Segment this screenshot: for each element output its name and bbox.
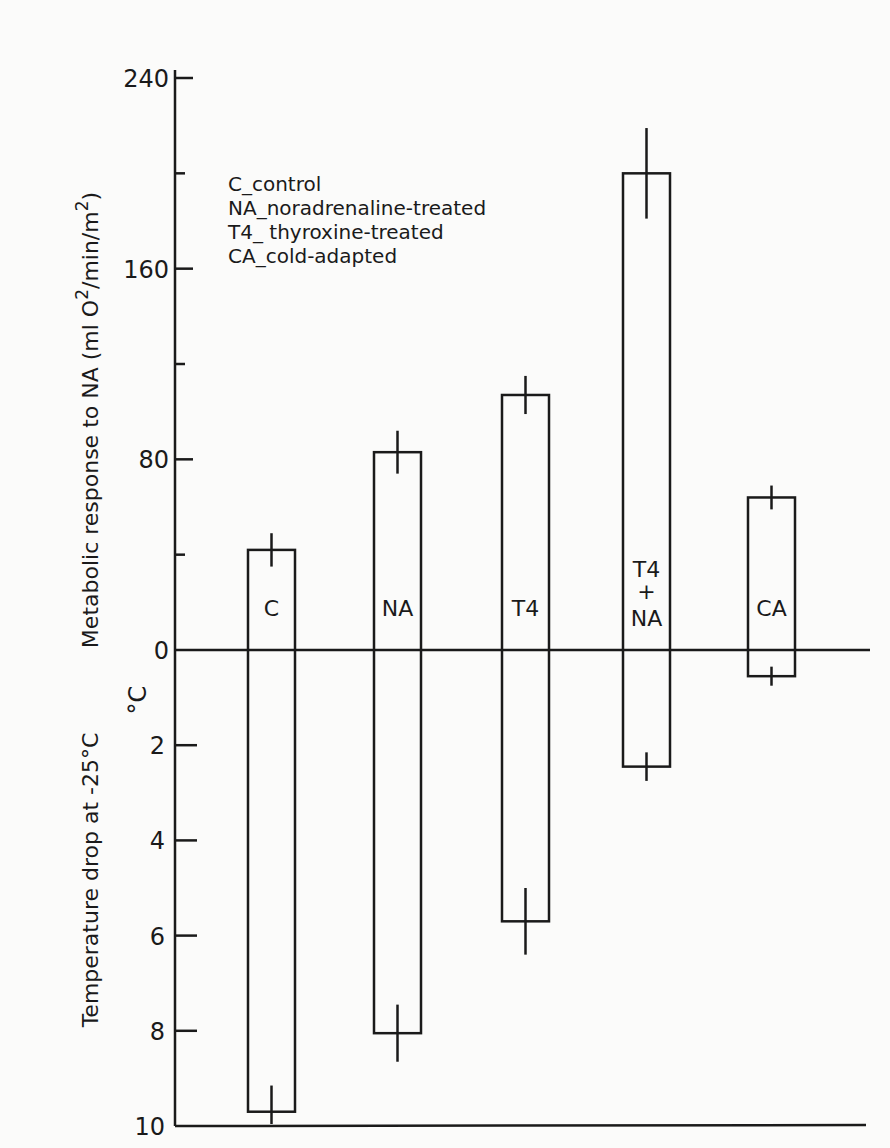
bar-label-plus: + xyxy=(637,579,655,604)
bar-label: CA xyxy=(756,596,786,621)
y-tick-label: 80 xyxy=(138,446,169,474)
bar-t4: T4 xyxy=(502,376,549,955)
bar-t4-plus-na: T4+NA xyxy=(623,128,670,781)
lower-axis-unit: °C xyxy=(124,686,152,715)
y-tick-label: 240 xyxy=(123,65,169,93)
bar-rect xyxy=(502,395,549,921)
bar-rect xyxy=(374,452,421,1033)
bars: CNAT4T4+NACA xyxy=(248,128,795,1124)
y-tick-label: 4 xyxy=(150,827,165,855)
y-tick-label: 8 xyxy=(150,1018,165,1046)
bar-label: NA xyxy=(382,596,414,621)
baseline xyxy=(175,1125,866,1126)
bar-ca: CA xyxy=(748,486,795,686)
bar-na: NA xyxy=(374,431,421,1062)
y-tick-label: 10 xyxy=(134,1113,165,1141)
y-tick-label: 160 xyxy=(123,256,169,284)
bar-rect xyxy=(623,173,670,766)
y-tick-label: 0 xyxy=(154,637,169,665)
bar-label: NA xyxy=(631,606,663,631)
bar-label: T4 xyxy=(511,596,539,621)
bar-rect xyxy=(248,550,295,1112)
bar-chart: CNAT4T4+NACA 080160240246810°CMetabolic … xyxy=(0,0,890,1148)
upper-axis-title: Metabolic response to NA (ml O2/min/m2) xyxy=(72,192,103,648)
y-tick-label: 6 xyxy=(150,923,165,951)
bar-label: C xyxy=(264,596,279,621)
y-tick-label: 2 xyxy=(150,732,165,760)
lower-axis-title: Temperature drop at -25°C xyxy=(78,733,103,1029)
axis-labels: 080160240246810°CMetabolic response to N… xyxy=(72,65,169,1141)
bar-c: C xyxy=(248,533,295,1124)
